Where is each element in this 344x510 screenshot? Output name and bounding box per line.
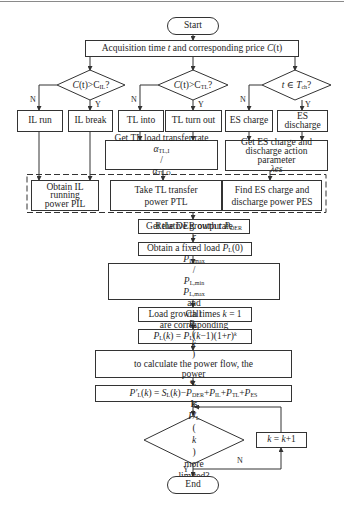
tl-rate-formula: αTL,I/αTL,O bbox=[152, 144, 170, 177]
relative-growth-rate-box: Relative growth rate r = PL,max/PL,min P… bbox=[108, 263, 280, 300]
es-charge-box: ES charge bbox=[225, 110, 273, 132]
growth-rate-line-1: Relative growth rate r = PL,max/PL,min bbox=[155, 221, 233, 287]
il-no-label: N bbox=[30, 96, 36, 104]
es-discharge-box: ES discharge bbox=[277, 110, 328, 132]
il-break-box: IL break bbox=[68, 110, 113, 132]
find-es-power-box: Find ES charge and discharge power PES bbox=[222, 180, 322, 211]
limit-no-label: N bbox=[237, 457, 243, 465]
il-run-label: IL run bbox=[28, 116, 52, 126]
tl-turn-out-label: TL turn out bbox=[172, 116, 215, 126]
tl-no-label: N bbox=[131, 96, 137, 104]
il-run-box: IL run bbox=[17, 110, 63, 132]
tl-into-label: TL into bbox=[127, 116, 155, 126]
il-yes-label: Y bbox=[95, 101, 101, 109]
increment-k-label: k = k+1 bbox=[267, 435, 296, 445]
il-break-label: IL break bbox=[74, 116, 106, 126]
es-yes-label: Y bbox=[305, 101, 311, 109]
es-action-parameter-box: Get ES charge and discharge action param… bbox=[225, 140, 328, 171]
acquisition-box: Acquisition time t and corresponding pri… bbox=[85, 40, 299, 57]
tl-transfer-rate-box: Get TL load transfer rate αTL,I/αTL,O bbox=[105, 140, 218, 170]
tl-yes-label: Y bbox=[198, 101, 204, 109]
es-charge-label: ES charge bbox=[230, 116, 269, 126]
take-tl-power-box: Take TL transfer power PTL bbox=[110, 180, 222, 211]
start-label: Start bbox=[184, 21, 202, 31]
es-discharge-label-2: discharge bbox=[284, 121, 320, 130]
take-tl-line-1: Take TL transfer bbox=[134, 184, 197, 196]
find-es-line-1: Find ES charge and bbox=[235, 184, 310, 196]
limit-yes-label: Y bbox=[183, 466, 189, 474]
take-tl-line-2: power PTL bbox=[144, 196, 187, 208]
obtain-il-power-box: Obtain IL running power PIL bbox=[31, 180, 99, 211]
obtain-il-line-3: power PIL bbox=[45, 200, 85, 209]
increment-k-box: k = k+1 bbox=[256, 432, 307, 448]
start-terminal: Start bbox=[167, 17, 219, 35]
tl-rate-label: Get TL load transfer rate bbox=[115, 133, 209, 144]
tl-into-box: TL into bbox=[118, 110, 164, 132]
decision-es-label: t ∈ Tch? bbox=[262, 78, 331, 92]
decision-limit-line-1: Is P'L(k)more bbox=[184, 398, 204, 470]
net-load-formula-label: P'L(k) = SL(k)−PDER+PIL+PTL+PES bbox=[130, 389, 258, 399]
decision-tl-label: C(t)>CTL? bbox=[158, 78, 228, 92]
tl-turn-out-box: TL turn out bbox=[165, 110, 222, 132]
end-label: End bbox=[185, 480, 200, 490]
es-no-label: N bbox=[240, 96, 246, 104]
decision-il-label: C(t)>CIL? bbox=[57, 78, 125, 92]
end-terminal: End bbox=[167, 476, 219, 494]
find-es-line-2: discharge power PES bbox=[231, 196, 312, 208]
power-flow-line-1: Call PL(k) to calculate the power flow, … bbox=[134, 309, 253, 369]
power-flow-box: Call PL(k) to calculate the power flow, … bbox=[95, 350, 292, 378]
es-param-line-3: parameter λes bbox=[258, 156, 296, 174]
acquisition-label: Acquisition time t and corresponding pri… bbox=[102, 44, 282, 54]
decision-limit-label: Is P'L(k)more limited? bbox=[154, 428, 234, 452]
